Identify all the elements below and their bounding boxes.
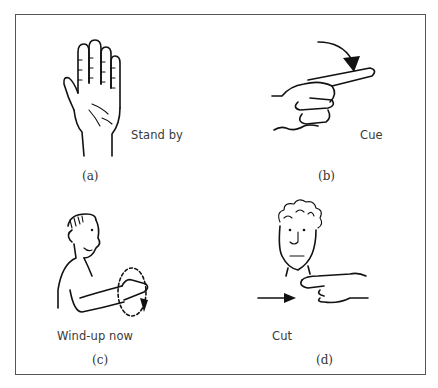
signal-label-cut: Cut [272,329,292,343]
man-wind-up-gesture-icon [52,208,152,323]
caption-c: (c) [92,353,108,367]
caption-a: (a) [82,169,99,183]
signal-label-wind-up-now: Wind-up now [57,329,133,343]
open-palm-hand-icon [62,38,122,158]
caption-d: (d) [316,353,333,367]
signal-label-cue: Cue [360,128,383,142]
signal-label-stand-by: Stand by [131,128,183,142]
man-cut-gesture-icon [258,198,386,308]
pointing-hand-cue-icon [270,36,390,136]
caption-b: (b) [318,169,335,183]
